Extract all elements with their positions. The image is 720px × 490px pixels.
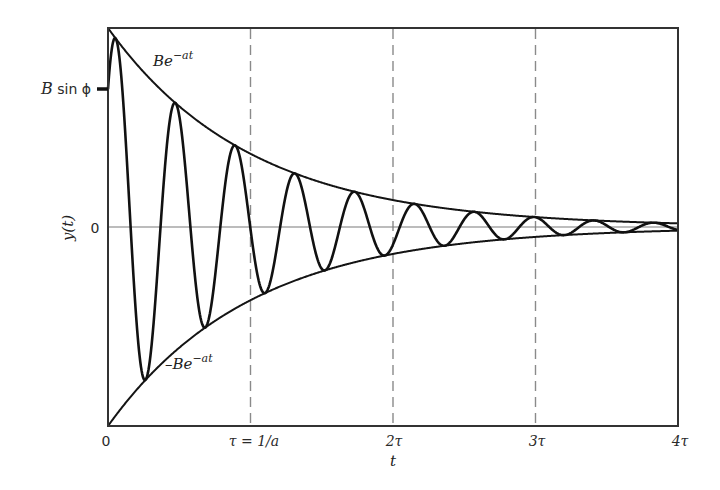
x-axis-label: t — [390, 452, 397, 470]
lower-envelope-label: –Be−at — [165, 352, 213, 373]
y-axis-label: y(t) — [59, 215, 77, 242]
y-tick-b-sin-phi: B sin ϕ — [40, 79, 91, 98]
x-tick-3tau: 3τ — [529, 433, 546, 449]
x-tick-2tau: 2τ — [385, 433, 403, 449]
y-tick-zero: 0 — [91, 220, 100, 236]
x-tick-4tau: 4τ — [671, 433, 689, 449]
x-tick-0: 0 — [102, 433, 111, 449]
x-tick-tau: τ = 1/a — [229, 433, 279, 449]
damped-oscillation-chart: B sin ϕ 0 y(t) 0 τ = 1/a 2τ 3τ 4τ t Be−a… — [0, 0, 720, 490]
upper-envelope-label: Be−at — [152, 49, 194, 70]
